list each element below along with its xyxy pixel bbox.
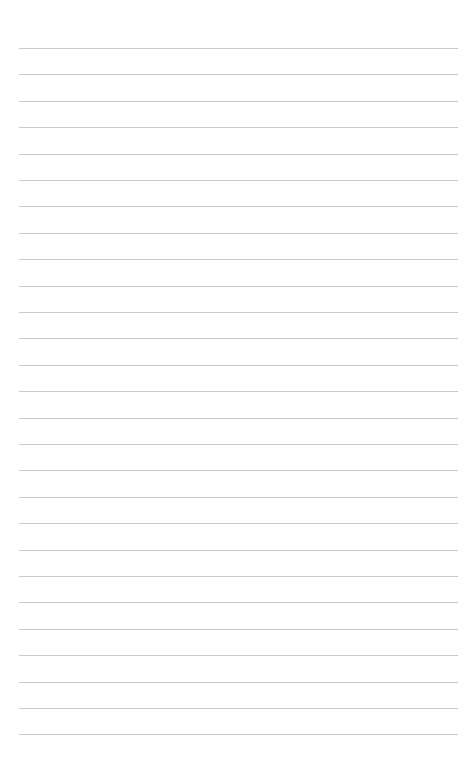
ruled-line	[19, 734, 458, 735]
ruled-line	[19, 74, 458, 75]
ruled-line	[19, 576, 458, 577]
ruled-line	[19, 497, 458, 498]
ruled-line	[19, 470, 458, 471]
ruled-line	[19, 550, 458, 551]
ruled-line	[19, 365, 458, 366]
ruled-line	[19, 338, 458, 339]
ruled-line	[19, 523, 458, 524]
ruled-line	[19, 206, 458, 207]
ruled-line	[19, 154, 458, 155]
ruled-line	[19, 101, 458, 102]
ruled-line	[19, 391, 458, 392]
ruled-line	[19, 233, 458, 234]
ruled-line	[19, 127, 458, 128]
ruled-line	[19, 655, 458, 656]
ruled-line	[19, 286, 458, 287]
ruled-line	[19, 259, 458, 260]
ruled-line	[19, 418, 458, 419]
ruled-line	[19, 629, 458, 630]
lined-paper-sheet	[0, 0, 467, 763]
ruled-line	[19, 180, 458, 181]
ruled-line	[19, 708, 458, 709]
ruled-line	[19, 48, 458, 49]
ruled-line	[19, 602, 458, 603]
ruled-line	[19, 682, 458, 683]
ruled-line	[19, 444, 458, 445]
ruled-line	[19, 312, 458, 313]
